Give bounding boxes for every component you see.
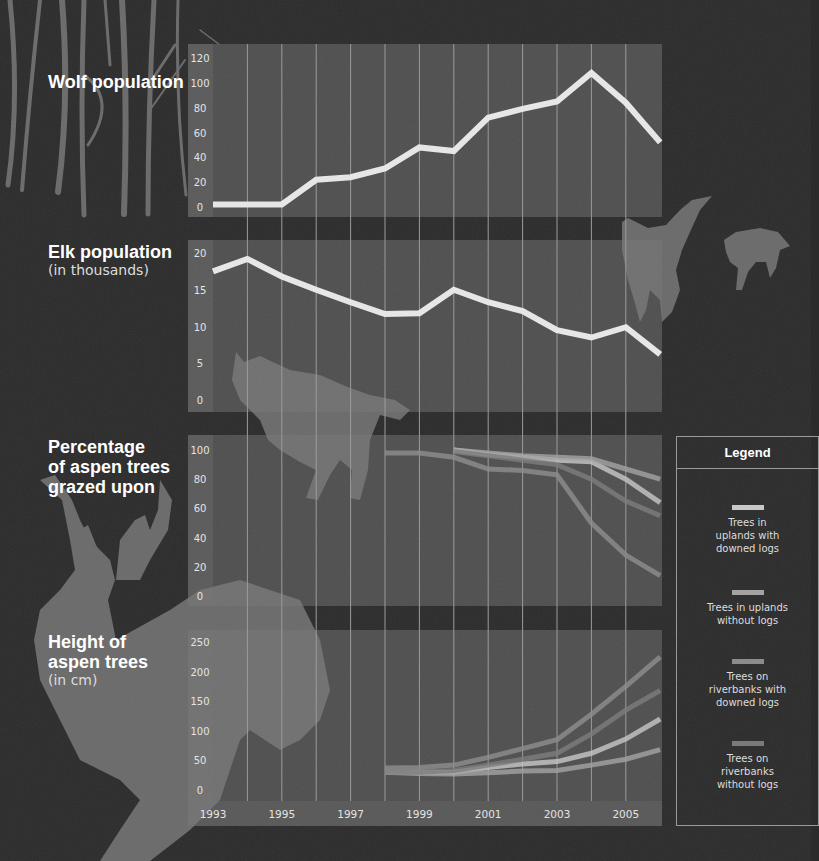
elk-chart-subtitle: (in thousands) — [48, 262, 172, 279]
y-tick-label: 250 — [190, 637, 209, 648]
y-tick-label: 5 — [197, 358, 203, 369]
y-tick-label: 150 — [190, 696, 209, 707]
y-tick-label: 40 — [194, 533, 207, 544]
x-tick-label: 2001 — [475, 808, 502, 820]
legend-title: Legend — [677, 437, 818, 469]
y-tick-label: 100 — [190, 78, 209, 89]
y-tick-label: 0 — [197, 395, 203, 406]
wolf-chart-title: Wolf population — [48, 72, 184, 92]
x-tick-label: 1997 — [337, 808, 364, 820]
legend-swatch — [732, 590, 764, 595]
y-tick-label: 0 — [197, 202, 203, 213]
legend-swatch — [732, 505, 764, 510]
y-tick-label: 15 — [194, 285, 207, 296]
y-tick-label: 100 — [190, 445, 209, 456]
legend-swatch — [732, 741, 764, 746]
legend-item-riverbanks-without-logs: Trees on riverbanks without logs — [677, 741, 818, 791]
y-tick-label: 10 — [194, 322, 207, 333]
y-tick-label: 60 — [194, 128, 207, 139]
elk-chart-title: Elk population(in thousands) — [48, 242, 172, 279]
height-chart-title: Height of aspen trees (in cm) — [48, 632, 148, 689]
legend-box: Legend Trees in uplands with downed logs… — [676, 436, 819, 826]
x-tick-label: 2005 — [612, 808, 639, 820]
y-tick-label: 80 — [194, 103, 207, 114]
y-tick-label: 0 — [197, 785, 203, 796]
y-tick-label: 200 — [190, 667, 209, 678]
x-tick-label: 1995 — [268, 808, 295, 820]
y-tick-label: 20 — [194, 248, 207, 259]
y-tick-label: 40 — [194, 152, 207, 163]
y-tick-label: 20 — [194, 177, 207, 188]
y-tick-label: 50 — [194, 755, 207, 766]
legend-item-uplands-with-logs: Trees in uplands with downed logs — [677, 505, 818, 555]
legend-swatch — [732, 659, 764, 664]
y-tick-label: 60 — [194, 503, 207, 514]
y-tick-label: 100 — [190, 726, 209, 737]
x-tick-label: 2003 — [544, 808, 571, 820]
grazed-chart-title: Percentage of aspen trees grazed upon — [48, 437, 170, 497]
y-tick-label: 0 — [197, 591, 203, 602]
x-tick-label: 1993 — [200, 808, 227, 820]
y-tick-label: 80 — [194, 474, 207, 485]
legend-item-uplands-without-logs: Trees in uplands without logs — [677, 590, 818, 627]
x-tick-label: 1999 — [406, 808, 433, 820]
height-chart-subtitle: (in cm) — [48, 672, 148, 689]
legend-item-riverbanks-with-logs: Trees on riverbanks with downed logs — [677, 659, 818, 709]
y-tick-label: 120 — [190, 53, 209, 64]
y-tick-label: 20 — [194, 562, 207, 573]
